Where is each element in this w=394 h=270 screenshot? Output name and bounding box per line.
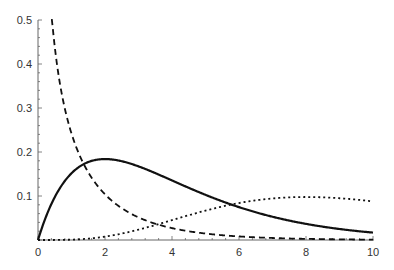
x-tick-label: 4 [169, 246, 175, 258]
chart: 02468100.10.20.30.40.5 [0, 0, 394, 270]
y-tick-label: 0.5 [17, 14, 32, 26]
x-tick-label: 2 [102, 246, 108, 258]
solid-curve [38, 159, 373, 240]
y-tick-label: 0.4 [17, 58, 32, 70]
x-tick-label: 0 [35, 246, 41, 258]
y-tick-label: 0.2 [17, 146, 32, 158]
tick-labels: 02468100.10.20.30.40.5 [17, 14, 379, 258]
dotted-curve [38, 197, 373, 240]
dashed-curve [51, 20, 373, 240]
y-tick-label: 0.1 [17, 190, 32, 202]
curves [38, 20, 373, 240]
x-tick-label: 8 [303, 246, 309, 258]
x-tick-label: 6 [236, 246, 242, 258]
x-tick-label: 10 [367, 246, 379, 258]
axes [38, 20, 374, 240]
y-tick-label: 0.3 [17, 102, 32, 114]
